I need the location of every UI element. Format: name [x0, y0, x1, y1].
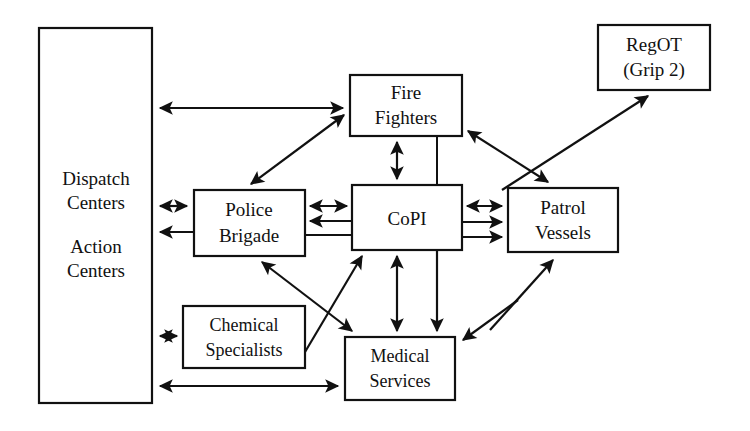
node-medical-services[interactable]: Medical Services [345, 337, 455, 400]
organisation-interaction-diagram: Dispatch Centers Action Centers Fire Fig… [0, 0, 750, 431]
chemical-specialists-label-line1: Chemical [210, 315, 279, 335]
regot-label-line2: (Grip 2) [623, 59, 685, 81]
fire-fighters-label-line1: Fire [391, 82, 422, 103]
edge-medical-to-patrol [490, 260, 553, 330]
fire-fighters-label-line2: Fighters [375, 107, 437, 128]
edge-firefighters-patrol-bidirectional [468, 131, 548, 182]
dispatch-centers-label-line2: Centers [67, 192, 125, 213]
node-patrol-vessels[interactable]: Patrol Vessels [508, 188, 618, 252]
node-dispatch-action-centers[interactable]: Dispatch Centers Action Centers [39, 28, 152, 403]
action-centers-label-line1: Action [70, 236, 122, 257]
node-chemical-specialists[interactable]: Chemical Specialists [183, 306, 305, 368]
police-brigade-label-line2: Brigade [219, 225, 279, 246]
dispatch-action-centers-box[interactable] [39, 28, 152, 403]
police-brigade-label-line1: Police [225, 199, 273, 220]
node-layer: Dispatch Centers Action Centers Fire Fig… [39, 25, 710, 403]
regot-label-line1: RegOT [626, 34, 682, 55]
patrol-vessels-label-line2: Vessels [535, 222, 591, 243]
medical-services-label-line2: Services [370, 371, 431, 391]
copi-label: CoPI [387, 208, 426, 229]
node-fire-fighters[interactable]: Fire Fighters [350, 75, 462, 136]
diagram-canvas: Dispatch Centers Action Centers Fire Fig… [0, 0, 750, 431]
node-copi[interactable]: CoPI [352, 185, 462, 250]
edge-patrol-to-regot [502, 96, 648, 190]
edge-police-firefighters-bidirectional [251, 115, 344, 184]
chemical-specialists-label-line2: Specialists [206, 340, 283, 360]
edge-patrol-to-medical [463, 300, 518, 340]
medical-services-label-line1: Medical [371, 346, 430, 366]
node-police-brigade[interactable]: Police Brigade [194, 190, 305, 256]
dispatch-centers-label-line1: Dispatch [62, 168, 130, 189]
node-regot-grip2[interactable]: RegOT (Grip 2) [598, 25, 710, 90]
patrol-vessels-label-line1: Patrol [540, 197, 585, 218]
action-centers-label-line2: Centers [67, 260, 125, 281]
